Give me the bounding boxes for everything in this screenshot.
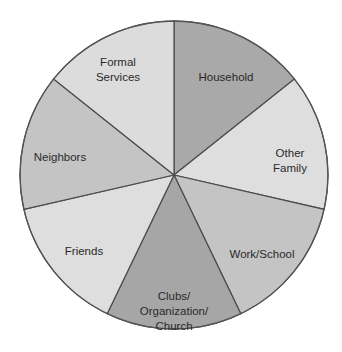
slice-label: Household: [199, 71, 254, 83]
slice-label: Neighbors: [34, 151, 87, 163]
slice-label: Friends: [65, 245, 104, 257]
pie-slices: [20, 21, 328, 329]
pie-diagram: HouseholdOtherFamilyWork/SchoolClubs/Org…: [0, 0, 342, 352]
slice-label: Work/School: [230, 248, 295, 260]
pie-chart: HouseholdOtherFamilyWork/SchoolClubs/Org…: [0, 0, 342, 352]
